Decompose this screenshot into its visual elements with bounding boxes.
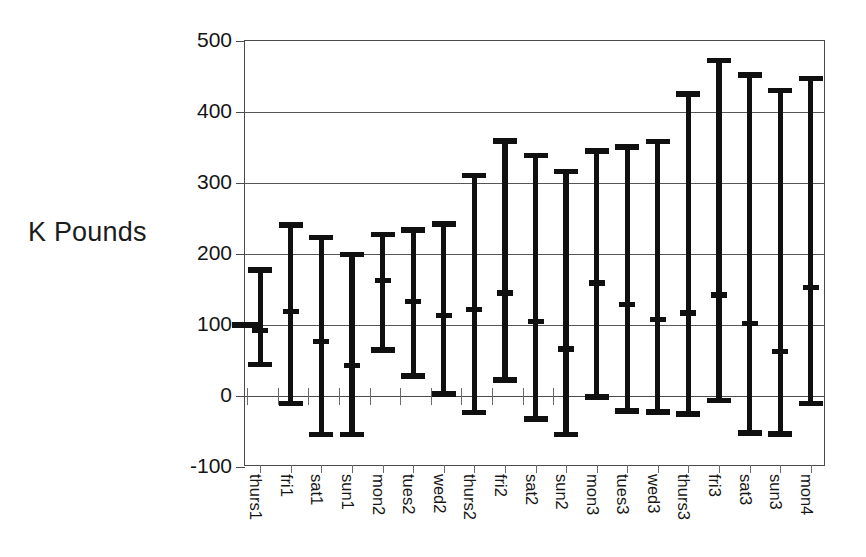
error-bar-stem [441,222,446,396]
error-bar-upper-cap [340,252,364,258]
x-axis-tick-label: sat3 [736,474,755,505]
error-bar-mid-marker [558,346,574,351]
x-axis-tick-label: thurs3 [674,474,693,520]
y-axis-tick-label: 300 [197,170,232,194]
error-bar-stem [288,223,293,405]
x-axis-tick-label: thurs1 [246,474,265,520]
x-axis-tick-mark [505,465,506,473]
zero-axis-tick-stub [278,388,279,405]
zero-axis-tick-stub [370,388,371,405]
error-bar-upper-cap [768,88,792,94]
error-bar-upper-cap [432,221,456,227]
y-axis-tick-label: 200 [197,241,232,265]
error-bar-upper-cap [493,138,517,144]
error-bar-stem [533,154,538,421]
x-axis-tick-mark [291,465,292,473]
error-bar-lower-cap [524,416,548,422]
error-bar-upper-cap [585,148,609,154]
error-bar-upper-cap [554,169,578,175]
error-bar-stem [594,149,599,399]
zero-axis-tick-stub [339,388,340,405]
error-bar-lower-cap [493,377,517,383]
x-axis-tick-label: wed2 [430,474,449,513]
error-bar-mid-marker [436,313,452,318]
y-axis-tick-mark [236,41,245,42]
x-axis-tick-mark [750,465,751,473]
error-bar-stem [472,174,477,415]
zero-axis-tick-stub [553,388,554,405]
x-axis-tick-mark [413,465,414,473]
x-axis-tick-label: thurs2 [460,474,479,520]
error-bar-stem [655,140,660,414]
error-bar-lower-cap [401,373,425,379]
error-bar-mid-marker [344,363,360,368]
x-axis-tick-mark [383,465,384,473]
error-bar-upper-cap [676,91,700,97]
error-bar-lower-cap [676,411,700,417]
x-axis-tick-mark [536,465,537,473]
x-axis-tick-labels: thurs1fri1sat1sun1mon2tues2wed2thurs2fri… [244,474,825,557]
zero-axis-tick-stub [461,388,462,405]
error-bar-upper-cap [401,227,425,233]
x-axis-tick-label: mon3 [583,474,602,515]
x-axis-tick-mark [780,465,781,473]
error-bar-stem [625,145,630,413]
x-axis-tick-label: sat1 [307,474,326,505]
error-bar-upper-cap [524,153,548,159]
error-bar-upper-cap [615,144,639,150]
error-bar-stem [808,77,813,406]
y-axis-tick-label: 0 [220,383,232,407]
x-axis-tick-mark [352,465,353,473]
x-axis-tick-label: mon2 [369,474,388,515]
error-bar-stem [716,59,721,403]
y-axis-tick-label: 400 [197,99,232,123]
x-axis-tick-mark [627,465,628,473]
error-bar-stem [747,73,752,435]
error-bar-lower-cap [462,410,486,416]
zero-axis-tick-stub [308,388,309,405]
error-bar-lower-cap [799,401,823,407]
x-axis-tick-mark [688,465,689,473]
x-axis-tick-label: sat2 [522,474,541,505]
error-bar-upper-cap [799,76,823,82]
error-bar-mid-marker [589,280,605,285]
error-bar-lower-cap [768,431,792,437]
y-axis-tick-mark [236,396,245,397]
error-bar-upper-cap [707,58,731,64]
x-axis-tick-mark [719,465,720,473]
error-bar-mid-marker [711,292,727,297]
error-bar-lower-cap [707,398,731,404]
error-bar-mid-marker [252,328,268,333]
zero-axis-tick-stub [492,388,493,405]
error-bar-stem [258,268,263,366]
plot-area [244,40,825,466]
error-bar-mid-marker [466,307,482,312]
y-axis-tick-labels: -1000100200300400500 [150,40,232,466]
error-bar-lower-cap [738,430,762,436]
error-bar-lower-cap [279,401,303,407]
x-axis-tick-mark [444,465,445,473]
zero-axis-tick-stub [523,388,524,405]
error-bar-mid-marker [405,299,421,304]
x-axis-tick-mark [474,465,475,473]
error-bar-stem [319,236,324,437]
x-axis-tick-label: tues2 [399,474,418,514]
zero-axis-tick-stub [400,388,401,405]
x-axis-tick-label: tues3 [613,474,632,514]
y-axis-tick-label: 100 [197,312,232,336]
y-axis-tick-mark [236,254,245,255]
error-bar-lower-cap [646,409,670,415]
y-axis-tick-label: -100 [190,454,232,478]
error-bar-lower-cap [585,394,609,400]
error-bar-stem [686,92,691,416]
x-axis-tick-mark [321,465,322,473]
x-axis-tick-label: fri2 [491,474,510,497]
x-axis-tick-label: fri1 [277,474,296,497]
y-axis-tick-mark [236,467,245,468]
error-bar-mid-marker [772,349,788,354]
error-bar-mid-marker [497,290,513,295]
x-axis-tick-mark [566,465,567,473]
error-bar-mid-marker [680,310,696,315]
error-bar-mid-marker [619,302,635,307]
y-axis-tick-mark [236,112,245,113]
